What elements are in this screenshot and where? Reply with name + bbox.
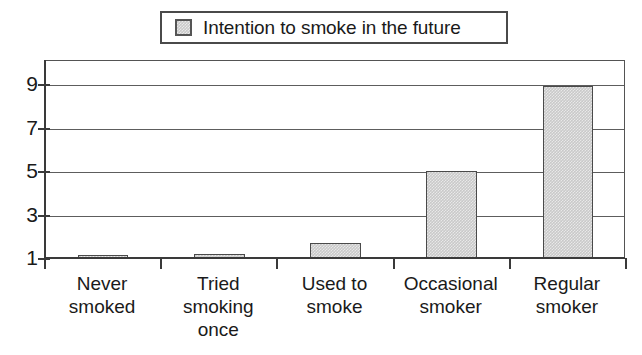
plot-inner: [45, 61, 624, 258]
y-tick-mark-3: [38, 215, 50, 217]
category-label-line: Regular: [509, 272, 625, 295]
category-label-line: Occasional: [393, 272, 509, 295]
x-axis-line: [44, 257, 625, 259]
y-tick-label-9: 9: [8, 73, 38, 94]
gridline-7: [45, 129, 624, 130]
legend-color-swatch-icon: [175, 19, 192, 36]
category-label-line: Never: [44, 272, 160, 295]
category-label-line: smoker: [393, 295, 509, 318]
x-tick-mark-5: [625, 258, 627, 269]
category-label-line: smoker: [509, 295, 625, 318]
y-tick-mark-7: [38, 128, 50, 130]
category-label-line: Used to: [276, 272, 392, 295]
y-tick-mark-1: [38, 258, 50, 260]
y-tick-label-3: 3: [8, 204, 38, 225]
x-axis-category-label-2: Triedsmokingonce: [160, 272, 276, 341]
x-axis-category-label-1: Neversmoked: [44, 272, 160, 318]
x-axis-category-label-3: Used tosmoke: [276, 272, 392, 318]
y-tick-label-7: 7: [8, 117, 38, 138]
x-tick-mark-2: [276, 258, 278, 269]
y-tick-label-1: 1: [8, 247, 38, 268]
y-tick-label-5: 5: [8, 160, 38, 181]
gridline-5: [45, 172, 624, 173]
plot-area: [44, 60, 625, 258]
x-tick-mark-1: [160, 258, 162, 269]
category-label-line: smoking: [160, 295, 276, 318]
category-label-line: smoked: [44, 295, 160, 318]
y-axis-labels: 13579: [0, 0, 38, 355]
x-tick-mark-3: [393, 258, 395, 269]
category-label-line: smoke: [276, 295, 392, 318]
x-axis-category-label-5: Regularsmoker: [509, 272, 625, 318]
bar-5: [543, 86, 594, 258]
y-tick-mark-9: [38, 84, 50, 86]
chart-legend: Intention to smoke in the future: [160, 11, 508, 44]
legend-label: Intention to smoke in the future: [203, 17, 461, 39]
bar-3: [310, 243, 361, 258]
gridline-9: [45, 85, 624, 86]
x-tick-mark-4: [509, 258, 511, 269]
category-label-line: Tried: [160, 272, 276, 295]
gridline-3: [45, 216, 624, 217]
y-axis-line: [44, 60, 46, 260]
bar-4: [426, 171, 477, 258]
category-label-line: once: [160, 318, 276, 341]
bar-chart-figure: Intention to smoke in the future 13579 N…: [0, 0, 642, 355]
y-tick-mark-5: [38, 171, 50, 173]
x-axis-category-label-4: Occasionalsmoker: [393, 272, 509, 318]
